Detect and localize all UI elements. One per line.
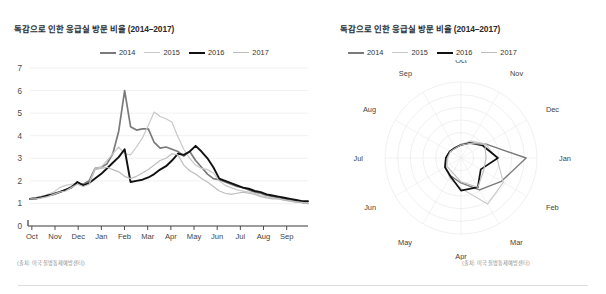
- legend-swatch-2016-radar: [437, 52, 453, 54]
- radar-chart-panel: 독감으로 인한 응급실 방문 비율 (2014–2017) 2014 2015 …: [312, 0, 606, 270]
- legend-label-2015: 2015: [163, 49, 179, 56]
- radar-label-aug: Aug: [363, 105, 376, 114]
- svg-text:3: 3: [17, 154, 22, 163]
- data-series-group: [30, 91, 308, 204]
- legend-label-2017-radar: 2017: [500, 49, 516, 56]
- svg-text:Aug: Aug: [257, 232, 271, 241]
- legend-item-2016-radar: 2016: [437, 49, 472, 56]
- radar-label-sep: Sep: [399, 69, 412, 78]
- page-title-right: 독감으로 인한 응급실 방문 비율 (2014–2017): [340, 22, 500, 34]
- radar-label-nov: Nov: [510, 69, 523, 78]
- radar-chart-svg: OctNovDecJanFebMarAprMayJunJulAugSep: [312, 60, 606, 260]
- line-chart-svg: 01234567 OctNovDecJanFebMarAprMayJunJulA…: [0, 60, 312, 255]
- source-note-left: (출처: 미국 질병통제예방센터): [17, 259, 85, 266]
- svg-text:0: 0: [17, 222, 22, 231]
- x-axis: OctNovDecJanFebMarAprMayJunJulAugSep: [26, 220, 308, 241]
- svg-text:1: 1: [17, 199, 22, 208]
- svg-text:4: 4: [17, 132, 22, 141]
- svg-text:Feb: Feb: [118, 232, 131, 241]
- svg-text:Jun: Jun: [211, 232, 223, 241]
- legend-label-2014-radar: 2014: [367, 49, 383, 56]
- radar-plot-area: OctNovDecJanFebMarAprMayJunJulAugSep: [312, 60, 606, 260]
- svg-text:Jul: Jul: [235, 232, 245, 241]
- legend-item-2014: 2014: [100, 49, 135, 56]
- source-note-right: (출처: 미국 질병통제예방센터): [462, 259, 530, 266]
- radar-label-may: May: [398, 238, 412, 247]
- page-title: 독감으로 인한 응급실 방문 비율 (2014–2017): [14, 22, 174, 34]
- legend-item-2015-radar: 2015: [392, 49, 427, 56]
- radar-label-jul: Jul: [354, 154, 364, 163]
- legend-swatch-2017-radar: [481, 52, 497, 53]
- radar-spokes: [385, 82, 537, 234]
- legend-item-2016: 2016: [189, 49, 224, 56]
- svg-text:Dec: Dec: [71, 232, 85, 241]
- legend-item-2014-radar: 2014: [348, 49, 383, 56]
- line-chart-legend: 2014 2015 2016 2017: [100, 49, 269, 56]
- svg-text:2: 2: [17, 177, 22, 186]
- svg-text:May: May: [187, 232, 202, 241]
- line-chart-panel: 독감으로 인한 응급실 방문 비율 (2014–2017) 2014 2015 …: [0, 0, 312, 270]
- legend-label-2014: 2014: [119, 49, 135, 56]
- line-plot-area: 01234567 OctNovDecJanFebMarAprMayJunJulA…: [0, 60, 312, 255]
- svg-text:Apr: Apr: [165, 232, 177, 241]
- svg-text:5: 5: [17, 109, 22, 118]
- legend-swatch-2015: [144, 52, 160, 53]
- svg-text:Jan: Jan: [95, 232, 107, 241]
- svg-text:6: 6: [17, 87, 22, 96]
- legend-label-2017: 2017: [252, 49, 268, 56]
- svg-text:Sep: Sep: [280, 232, 294, 241]
- figure-page: 독감으로 인한 응급실 방문 비율 (2014–2017) 2014 2015 …: [0, 0, 606, 294]
- grid-lines: [30, 68, 308, 203]
- radar-label-jan: Jan: [559, 154, 571, 163]
- legend-item-2017: 2017: [233, 49, 268, 56]
- legend-label-2016-radar: 2016: [456, 49, 472, 56]
- legend-item-2017-radar: 2017: [481, 49, 516, 56]
- legend-swatch-2014-radar: [348, 52, 364, 54]
- radar-label-feb: Feb: [546, 203, 559, 212]
- radar-label-dec: Dec: [546, 105, 559, 114]
- radar-label-mar: Mar: [510, 238, 523, 247]
- legend-swatch-2016: [189, 52, 205, 54]
- legend-item-2015: 2015: [144, 49, 179, 56]
- radar-label-jun: Jun: [364, 203, 376, 212]
- legend-swatch-2014: [100, 52, 116, 54]
- svg-text:Nov: Nov: [48, 232, 62, 241]
- bottom-divider: [18, 285, 588, 286]
- legend-label-2015-radar: 2015: [411, 49, 427, 56]
- radar-label-oct: Oct: [455, 60, 467, 65]
- svg-text:7: 7: [17, 64, 22, 73]
- svg-text:Mar: Mar: [141, 232, 155, 241]
- y-axis-ticks: 01234567: [17, 64, 22, 231]
- radar-chart-legend: 2014 2015 2016 2017: [348, 49, 517, 56]
- legend-swatch-2017: [233, 52, 249, 53]
- radar-series-group: [445, 141, 526, 204]
- legend-label-2016: 2016: [208, 49, 224, 56]
- legend-swatch-2015-radar: [392, 52, 408, 53]
- svg-text:Oct: Oct: [26, 232, 39, 241]
